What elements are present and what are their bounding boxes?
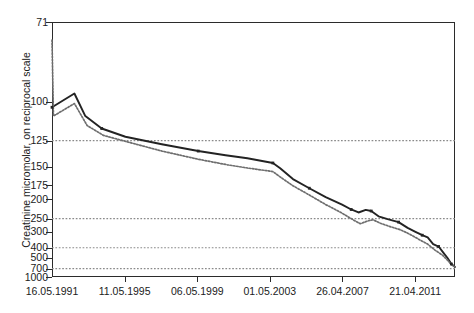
series-layer: [0, 0, 474, 313]
data-point-marker: [437, 245, 440, 248]
data-point-marker: [397, 221, 400, 224]
data-point-marker: [450, 263, 453, 266]
data-point-marker: [370, 210, 373, 213]
series-line-dotted-series: [52, 40, 455, 267]
data-markers: [51, 106, 453, 266]
data-lines: [52, 40, 455, 267]
data-point-marker: [197, 150, 200, 153]
data-point-marker: [51, 106, 54, 109]
data-point-marker: [308, 187, 311, 190]
data-point-marker: [350, 208, 353, 211]
data-point-marker: [421, 234, 424, 237]
chart-root: Creatinine micromolar, on reciprocal sca…: [0, 0, 474, 313]
data-point-marker: [100, 127, 103, 130]
data-point-marker: [271, 162, 274, 165]
series-line-solid-series: [52, 93, 455, 266]
